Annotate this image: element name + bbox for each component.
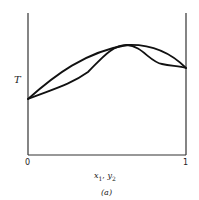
phase-diagram — [0, 0, 199, 200]
x-tick-0: 0 — [25, 159, 30, 167]
figure-caption: (a) — [101, 189, 112, 197]
lower-curve — [28, 45, 186, 99]
x-tick-1: 1 — [183, 159, 188, 167]
x-axis-label: x1, y2 — [94, 172, 116, 182]
x-axis-sub-2: 2 — [112, 175, 116, 182]
y-axis-label: T — [14, 75, 21, 85]
